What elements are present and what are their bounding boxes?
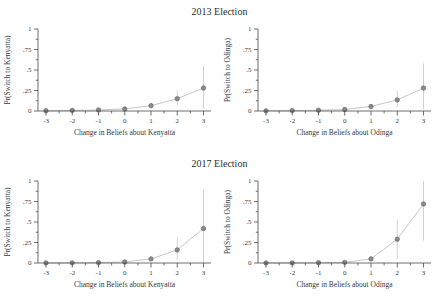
y-axis-title: Pr(Switch to Odinga) — [223, 37, 232, 102]
panel-2017-odinga: 0.25.5.751-3-2-10123Change in Beliefs ab… — [220, 171, 439, 299]
x-tick-label: 0 — [343, 269, 347, 277]
data-points — [264, 86, 426, 113]
data-point — [369, 104, 373, 108]
y-tick-label: .75 — [243, 198, 252, 206]
y-tick-label: .25 — [243, 87, 252, 95]
data-point — [149, 103, 153, 107]
y-tick-label: .5 — [246, 66, 252, 74]
figure: 2013 Election 0.25.5.751-3-2-10123Change… — [0, 0, 439, 307]
data-point — [123, 107, 127, 111]
data-points — [44, 226, 206, 265]
section-title-2013: 2013 Election — [0, 5, 439, 19]
y-axis-title: Pr(Switch to Kenyatta) — [3, 35, 12, 105]
y-tick-label: 0 — [248, 259, 252, 267]
axes — [34, 29, 211, 116]
x-tick-label: 2 — [396, 117, 400, 125]
x-tick-label: -2 — [69, 269, 75, 277]
error-bars — [46, 66, 204, 111]
error-bars — [266, 63, 424, 110]
x-tick-label: -1 — [316, 117, 322, 125]
x-tick-label: 1 — [149, 117, 153, 125]
x-tick-label: 1 — [369, 117, 373, 125]
chart-svg-top-left: 0.25.5.751-3-2-10123Change in Beliefs ab… — [0, 19, 219, 147]
row-2013: 0.25.5.751-3-2-10123Change in Beliefs ab… — [0, 19, 439, 147]
x-tick-label: -3 — [263, 269, 269, 277]
x-tick-label: 3 — [202, 117, 206, 125]
y-tick-label: .25 — [23, 239, 32, 247]
y-tick-label: .5 — [246, 218, 252, 226]
axes — [254, 181, 431, 268]
x-tick-label: -2 — [289, 117, 295, 125]
data-line — [46, 229, 204, 263]
y-tick-label: 0 — [248, 107, 252, 115]
x-tick-label: -1 — [96, 269, 102, 277]
data-point — [395, 237, 399, 241]
y-axis-title: Pr(Switch to Kenyatta) — [3, 187, 12, 257]
x-tick-label: 0 — [123, 117, 127, 125]
y-tick-label: 0 — [28, 259, 32, 267]
y-tick-label: 1 — [28, 177, 32, 185]
x-tick-label: 3 — [422, 269, 426, 277]
y-tick-label: .75 — [243, 46, 252, 54]
x-tick-label: -2 — [289, 269, 295, 277]
data-point — [201, 226, 205, 230]
x-tick-label: 1 — [369, 269, 373, 277]
x-tick-label: 0 — [123, 269, 127, 277]
y-tick-label: 1 — [248, 25, 252, 33]
error-bars — [46, 189, 204, 263]
row-2017: 0.25.5.751-3-2-10123Change in Beliefs ab… — [0, 171, 439, 299]
panel-2013-kenyatta: 0.25.5.751-3-2-10123Change in Beliefs ab… — [0, 19, 219, 147]
y-tick-label: 0 — [28, 107, 32, 115]
y-tick-label: 1 — [28, 25, 32, 33]
x-tick-label: -3 — [43, 269, 49, 277]
x-axis-title: Change in Beliefs about Odinga — [296, 280, 393, 289]
x-tick-label: 1 — [149, 269, 153, 277]
y-tick-label: .75 — [23, 198, 32, 206]
error-bars — [266, 181, 424, 263]
chart-svg-bottom-left: 0.25.5.751-3-2-10123Change in Beliefs ab… — [0, 171, 219, 299]
axes — [34, 181, 211, 268]
x-tick-label: -3 — [43, 117, 49, 125]
data-point — [421, 86, 425, 90]
y-axis-title: Pr(Switch to Odinga) — [223, 189, 232, 254]
y-tick-label: 1 — [248, 177, 252, 185]
data-point — [175, 97, 179, 101]
chart-svg-bottom-right: 0.25.5.751-3-2-10123Change in Beliefs ab… — [220, 171, 439, 299]
x-tick-label: 0 — [343, 117, 347, 125]
data-points — [44, 86, 206, 113]
panel-2017-kenyatta: 0.25.5.751-3-2-10123Change in Beliefs ab… — [0, 171, 219, 299]
y-tick-label: .5 — [26, 218, 32, 226]
x-axis-title: Change in Beliefs about Kenyatta — [74, 280, 176, 289]
x-tick-label: -1 — [316, 269, 322, 277]
data-point — [395, 98, 399, 102]
y-tick-label: .25 — [23, 87, 32, 95]
x-tick-label: 3 — [422, 117, 426, 125]
data-point — [369, 257, 373, 261]
x-tick-label: 3 — [202, 269, 206, 277]
panel-2013-odinga: 0.25.5.751-3-2-10123Change in Beliefs ab… — [220, 19, 439, 147]
x-tick-label: 2 — [396, 269, 400, 277]
data-line — [266, 204, 424, 263]
x-tick-label: -3 — [263, 117, 269, 125]
axes — [254, 29, 431, 116]
data-point — [421, 202, 425, 206]
data-point — [201, 86, 205, 90]
section-title-2017: 2017 Election — [0, 157, 439, 171]
chart-svg-top-right: 0.25.5.751-3-2-10123Change in Beliefs ab… — [220, 19, 439, 147]
data-point — [149, 257, 153, 261]
tick-labels: 0.25.5.751-3-2-10123 — [23, 25, 206, 125]
x-axis-title: Change in Beliefs about Odinga — [296, 128, 393, 137]
x-tick-label: 2 — [176, 269, 180, 277]
y-tick-label: .75 — [23, 46, 32, 54]
x-tick-label: 2 — [176, 117, 180, 125]
x-axis-title: Change in Beliefs about Kenyatta — [74, 128, 176, 137]
data-point — [175, 248, 179, 252]
x-tick-label: -2 — [69, 117, 75, 125]
y-tick-label: .25 — [243, 239, 252, 247]
x-tick-label: -1 — [96, 117, 102, 125]
y-tick-label: .5 — [26, 66, 32, 74]
